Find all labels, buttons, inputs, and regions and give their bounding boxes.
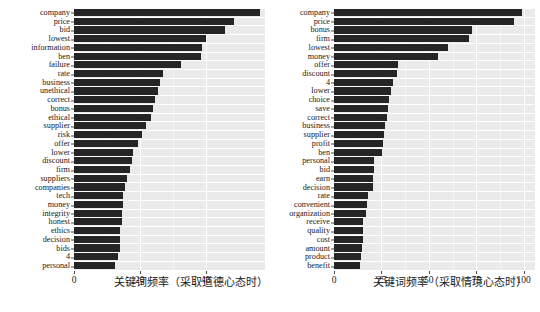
bar-row [74, 210, 265, 219]
bar-row [74, 244, 265, 253]
bar [74, 140, 138, 147]
bar [74, 61, 181, 68]
bar-row [74, 218, 265, 227]
bar-row [74, 18, 265, 27]
bar-row [334, 149, 535, 158]
chart-panel-contextual: companypricebonusfirmlowestmoneyofferdis… [270, 0, 540, 312]
bar-row [334, 70, 535, 79]
bar-row [334, 157, 535, 166]
bar [334, 96, 389, 103]
bar-row [334, 9, 535, 18]
bars-right [334, 9, 535, 271]
bar-row [334, 218, 535, 227]
x-axis-tick-label: 0 [72, 275, 77, 285]
x-axis-tick-mark [74, 271, 75, 274]
bar-row [74, 96, 265, 105]
bars-left [74, 9, 265, 271]
bar [334, 35, 469, 42]
bar [334, 79, 393, 86]
bar [334, 201, 367, 208]
bar-row [74, 44, 265, 53]
bar [334, 227, 363, 234]
keyword-frequency-figure: companypricebidlowestinformationbenfailu… [0, 0, 540, 312]
bar [334, 183, 373, 190]
bar-row [74, 227, 265, 236]
bar-row [74, 114, 265, 123]
x-axis-title-left: 关键词频率（采取道德心态时） [114, 273, 265, 289]
bar-row [334, 175, 535, 184]
bar-row [74, 35, 265, 44]
bar [74, 79, 160, 86]
bar [74, 183, 125, 190]
bar [334, 192, 368, 199]
bar [334, 166, 374, 173]
bar [334, 218, 363, 225]
bar-row [334, 236, 535, 245]
bar-row [74, 175, 265, 184]
chart-panel-moral: companypricebidlowestinformationbenfailu… [0, 0, 270, 312]
bar-row [74, 149, 265, 158]
bar-row [74, 192, 265, 201]
bar-row [334, 140, 535, 149]
bar [334, 70, 397, 77]
x-axis-right: 0255075100 关键词频率（采取情境心态时） [334, 271, 535, 293]
bar [74, 218, 122, 225]
bar [334, 44, 448, 51]
bar [334, 262, 360, 269]
bar [334, 236, 363, 243]
bar-row [74, 131, 265, 140]
x-axis-left: 02040 关键词频率（采取道德心态时） [74, 271, 265, 293]
bar-row [74, 122, 265, 131]
plot-area-left [74, 9, 265, 271]
bar-row [74, 87, 265, 96]
bar [334, 175, 373, 182]
bar-row [74, 61, 265, 70]
bar-row [334, 262, 535, 271]
y-axis-labels-left: companypricebidlowestinformationbenfailu… [0, 9, 70, 271]
bar-row [74, 140, 265, 149]
bar-row [334, 227, 535, 236]
bar [74, 210, 122, 217]
bar-row [74, 166, 265, 175]
bar [74, 35, 206, 42]
bar [334, 210, 366, 217]
bar-row [334, 26, 535, 35]
bar [74, 262, 115, 269]
bar-row [334, 61, 535, 70]
bar [74, 96, 155, 103]
bar [74, 253, 118, 260]
bar-row [74, 253, 265, 262]
bar-row [334, 44, 535, 53]
bar-row [74, 105, 265, 114]
bar-row [74, 70, 265, 79]
bar [334, 26, 472, 33]
bar-row [334, 105, 535, 114]
bar-row [74, 26, 265, 35]
bar-row [334, 35, 535, 44]
bar [74, 18, 234, 25]
bar-row [334, 53, 535, 62]
x-axis-tick-label: 0 [332, 275, 337, 285]
bar [74, 149, 133, 156]
bar [74, 9, 260, 16]
bar [74, 227, 120, 234]
bar-row [334, 166, 535, 175]
bar-row [334, 122, 535, 131]
bar-row [334, 131, 535, 140]
bar [74, 192, 123, 199]
bar [74, 122, 146, 129]
bar [74, 201, 123, 208]
bar-row [74, 201, 265, 210]
bar-row [74, 262, 265, 271]
bar-row [74, 79, 265, 88]
bar [334, 149, 382, 156]
bar-row [334, 210, 535, 219]
bar [334, 53, 438, 60]
bar-row [334, 253, 535, 262]
bar [334, 9, 522, 16]
y-axis-tick-label: personal [42, 262, 70, 270]
bar-row [334, 79, 535, 88]
bar [334, 105, 388, 112]
bar [74, 166, 130, 173]
y-axis-tick-label: benefit [307, 262, 330, 270]
